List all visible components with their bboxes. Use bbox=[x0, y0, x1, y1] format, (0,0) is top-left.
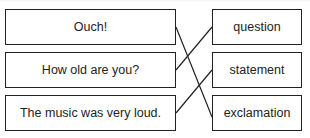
line-ouch-exclamation bbox=[176, 27, 212, 117]
match-lines bbox=[0, 0, 310, 138]
line-music-statement bbox=[176, 70, 212, 113]
line-howold-question bbox=[176, 27, 212, 70]
